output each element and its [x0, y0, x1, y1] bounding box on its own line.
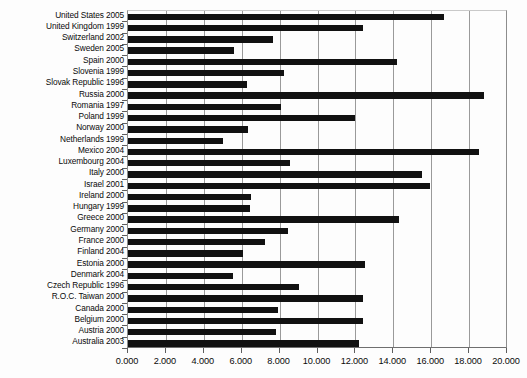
category-label: Romania 1997: [0, 101, 124, 110]
category-label: Greece 2000: [0, 213, 124, 222]
bar-row: [128, 101, 508, 113]
x-axis-tick-label: 18.000: [454, 356, 482, 366]
category-label: Mexico 2004: [0, 146, 124, 155]
category-label: R.O.C. Taiwan 2000: [0, 292, 124, 301]
y-axis-tick: [122, 224, 127, 225]
bar-row: [128, 79, 508, 91]
category-label: Italy 2000: [0, 168, 124, 177]
y-axis-tick: [122, 33, 127, 34]
x-axis-tick: [279, 348, 280, 353]
category-label: Australia 2003: [0, 337, 124, 346]
x-axis-tick-label: 14.000: [379, 356, 407, 366]
bar-row: [128, 56, 508, 68]
y-axis-tick: [122, 179, 127, 180]
x-axis-tick-label: 8.000: [267, 356, 290, 366]
bar-row: [128, 180, 508, 192]
bar: [128, 183, 430, 189]
bar: [128, 126, 248, 132]
bar: [128, 307, 278, 313]
x-axis-tick: [392, 348, 393, 353]
y-axis-tick: [122, 280, 127, 281]
bar: [128, 47, 234, 53]
y-axis-tick: [122, 21, 127, 22]
x-axis-tick: [127, 348, 128, 353]
bar-row: [128, 315, 508, 327]
bar-row: [128, 304, 508, 316]
category-label: Israel 2001: [0, 180, 124, 189]
bar: [128, 239, 265, 245]
bar-row: [128, 270, 508, 282]
category-axis-labels: United States 2005United Kingdom 1999Swi…: [0, 10, 124, 348]
bar: [128, 205, 250, 211]
bar-row: [128, 22, 508, 34]
category-label: Luxembourg 2004: [0, 157, 124, 166]
bar: [128, 104, 281, 110]
x-axis-tick: [354, 348, 355, 353]
category-label: Slovak Republic 1996: [0, 78, 124, 87]
y-axis-tick: [122, 348, 127, 349]
y-axis-tick: [122, 111, 127, 112]
category-label: Belgium 2000: [0, 315, 124, 324]
bar: [128, 59, 397, 65]
bar: [128, 216, 399, 222]
category-label: Netherlands 1999: [0, 135, 124, 144]
bar: [128, 25, 363, 31]
category-label: Norway 2000: [0, 123, 124, 132]
bar-row: [128, 135, 508, 147]
bar: [128, 149, 479, 155]
y-axis-tick: [122, 235, 127, 236]
bar: [128, 228, 288, 234]
bar-row: [128, 191, 508, 203]
y-axis-tick: [122, 89, 127, 90]
category-label: United States 2005: [0, 11, 124, 20]
bar: [128, 81, 247, 87]
y-axis-tick: [122, 55, 127, 56]
category-label: Canada 2000: [0, 304, 124, 313]
x-axis-tick-label: 10.000: [303, 356, 331, 366]
category-label: France 2000: [0, 236, 124, 245]
y-axis-tick: [122, 202, 127, 203]
x-axis-tick: [241, 348, 242, 353]
bar: [128, 318, 363, 324]
bar: [128, 70, 284, 76]
bar-row: [128, 124, 508, 136]
bar-row: [128, 293, 508, 305]
bar: [128, 284, 299, 290]
plot-area: [127, 10, 507, 348]
bar: [128, 14, 444, 20]
x-axis-tick-label: 6.000: [229, 356, 252, 366]
category-label: Czech Republic 1996: [0, 281, 124, 290]
bar-row: [128, 67, 508, 79]
y-axis-tick: [122, 213, 127, 214]
x-axis-ticks: [127, 348, 507, 354]
y-axis-tick: [122, 258, 127, 259]
bar-row: [128, 146, 508, 158]
y-axis-tick: [122, 247, 127, 248]
category-label: Russia 2000: [0, 90, 124, 99]
bar: [128, 295, 363, 301]
y-axis-tick: [122, 168, 127, 169]
bar-row: [128, 225, 508, 237]
x-axis-tick: [165, 348, 166, 353]
y-axis-tick: [122, 123, 127, 124]
x-axis-tick: [317, 348, 318, 353]
x-axis-tick: [506, 348, 507, 353]
y-axis-tick: [122, 78, 127, 79]
x-axis-tick-labels: 0.0002.0004.0006.0008.00010.00012.00014.…: [0, 356, 527, 372]
y-axis-tick: [122, 145, 127, 146]
x-axis-tick-label: 20.000: [492, 356, 520, 366]
category-label: Switzerland 2002: [0, 33, 124, 42]
category-label: Sweden 2005: [0, 44, 124, 53]
y-axis-tick: [122, 303, 127, 304]
y-axis-tick: [122, 156, 127, 157]
bar: [128, 115, 355, 121]
category-label: Estonia 2000: [0, 259, 124, 268]
bar-row: [128, 236, 508, 248]
y-axis-tick: [122, 66, 127, 67]
category-label: Germany 2000: [0, 225, 124, 234]
category-label: Slovenia 1999: [0, 67, 124, 76]
y-axis-tick: [122, 269, 127, 270]
category-label: Hungary 1999: [0, 202, 124, 211]
bar-row: [128, 169, 508, 181]
bar: [128, 92, 484, 98]
